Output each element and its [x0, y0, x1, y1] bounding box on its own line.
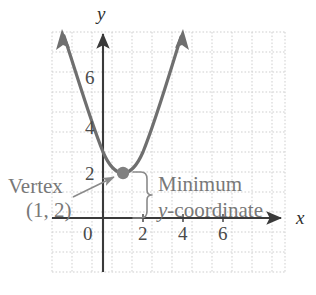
- vertex-point-dot: [117, 167, 129, 179]
- y-coordinate-annotation-label: y-coordinate: [158, 200, 263, 221]
- x-axis-label: x: [296, 208, 304, 227]
- x-tick-label-2: 2: [138, 224, 148, 243]
- y-axis-label: y: [97, 4, 105, 23]
- y-tick-label-6: 6: [85, 68, 95, 87]
- x-tick-label-6: 6: [218, 224, 228, 243]
- y-tick-label-4: 4: [85, 118, 95, 137]
- minimum-annotation-label: Minimum: [158, 174, 242, 195]
- parabola-right-arrowhead: [175, 29, 189, 50]
- minimum-brace: [133, 172, 152, 218]
- x-tick-label-4: 4: [178, 224, 188, 243]
- graph-svg: [0, 0, 316, 295]
- vertex-annotation-label: Vertex: [8, 176, 63, 197]
- y-tick-label-2: 2: [85, 164, 95, 183]
- parabola-left-arrowhead: [56, 29, 70, 50]
- y-coordinate-italic-y: y: [158, 198, 167, 222]
- vertex-coordinates-label: (1, 2): [26, 200, 72, 221]
- y-coordinate-suffix: -coordinate: [167, 198, 263, 222]
- x-tick-label-0: 0: [83, 224, 93, 243]
- parabola-vertex-figure: y x 6 4 2 0 2 4 6 Vertex (1, 2) Minimum …: [0, 0, 316, 295]
